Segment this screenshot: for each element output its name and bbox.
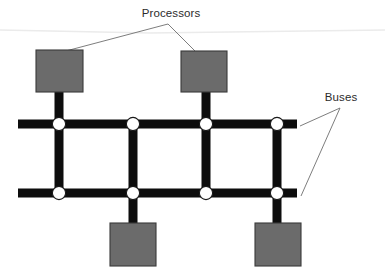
node-r2c1 [52,186,65,199]
buses-label: Buses [325,91,358,103]
processors-group [36,50,301,266]
bus-nodes-group [52,117,283,199]
node-r1c2 [126,117,139,130]
buses-group [18,92,297,224]
processors-label: Processors [142,7,201,19]
node-r1c3 [199,117,212,130]
diagram-canvas: Processors Buses [0,0,385,277]
bus-col-4 [273,124,282,193]
processor-bottom-left [110,223,156,266]
node-r2c4 [270,186,283,199]
processor-top-right [181,51,227,92]
leader-line-bus-row-top [300,108,340,126]
bus-col-1 [55,124,64,193]
leader-line-processor-top-right [168,24,196,52]
bus-col-2 [129,124,138,193]
diagram-svg: Processors Buses [0,0,385,277]
node-r2c2 [126,186,139,199]
leader-line-processor-top-left [62,24,168,52]
node-r1c1 [52,117,65,130]
leader-line-bus-row-bottom [301,108,340,196]
processor-bottom-right [255,223,301,266]
leader-lines-group [62,24,340,196]
node-r2c3 [199,186,212,199]
node-r1c4 [270,117,283,130]
scan-artifact-line [0,30,385,33]
bus-col-3 [202,124,211,193]
processor-top-left [36,50,83,92]
